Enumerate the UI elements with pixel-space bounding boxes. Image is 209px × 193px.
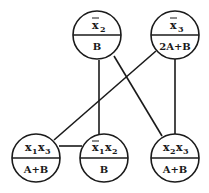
node-x1barx2: x 1 x 2 B: [80, 134, 128, 182]
node-label-sub: 2: [170, 146, 176, 156]
node-label-sub: 1: [99, 146, 105, 156]
node-weight: A+B: [162, 164, 188, 175]
edge-x2bar-x2x3: [114, 56, 162, 136]
node-x2bar: x 2 B: [73, 11, 121, 59]
node-weight: A+B: [23, 164, 49, 175]
graph-diagram: x 2 B x 3 2A+B x 1 x 3 A+B x 1 x 2 B x 2: [0, 0, 209, 193]
node-weight: 2A+B: [159, 41, 191, 52]
node-weight: B: [93, 41, 101, 52]
node-label-sub: 1: [32, 146, 38, 156]
node-x1x3: x 1 x 3 A+B: [12, 134, 60, 182]
edge-x3bar-x1x3: [54, 51, 156, 140]
node-label-main: x: [92, 141, 99, 154]
node-label-main: x: [25, 141, 32, 154]
edges: [54, 51, 175, 146]
node-x2x3: x 2 x 3 A+B: [151, 134, 199, 182]
node-label-sub: 2: [100, 24, 106, 34]
node-weight: B: [100, 164, 108, 175]
node-label-main: x: [170, 19, 177, 32]
node-label-main: x: [92, 19, 99, 32]
node-x3bar: x 3 2A+B: [151, 11, 199, 59]
node-label-main: x: [163, 141, 170, 154]
node-label-main: x: [105, 141, 112, 154]
node-label-sub: 3: [178, 24, 184, 34]
node-label-sub: 3: [183, 146, 189, 156]
node-label-sub: 3: [45, 146, 51, 156]
node-label-main: x: [176, 141, 183, 154]
node-label-sub: 2: [112, 146, 118, 156]
node-label-main: x: [38, 141, 45, 154]
